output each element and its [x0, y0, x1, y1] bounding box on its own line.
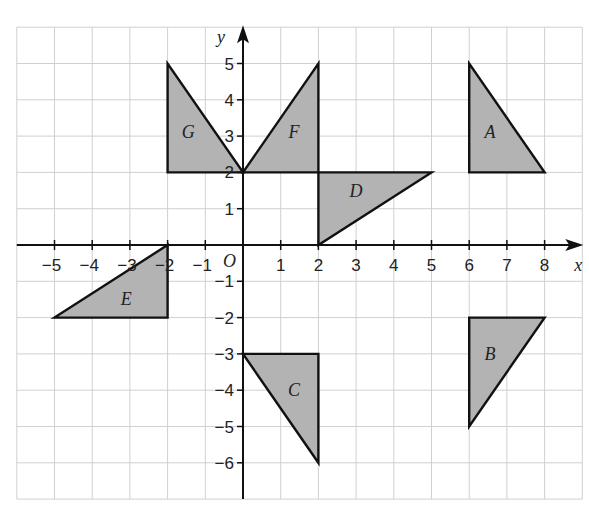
x-tick-label: 6 — [464, 256, 473, 275]
y-tick-label: 1 — [225, 200, 234, 219]
triangle-label-c: C — [288, 380, 301, 400]
y-tick-label: 4 — [225, 91, 234, 110]
x-tick-label: 7 — [502, 256, 511, 275]
x-axis-label: x — [573, 255, 582, 275]
x-tick-label: −5 — [42, 256, 61, 275]
x-tick-label: 5 — [427, 256, 436, 275]
triangle-label-d: D — [349, 181, 363, 201]
y-tick-label: 5 — [225, 55, 234, 74]
triangle-label-g: G — [182, 122, 195, 142]
x-tick-label: −3 — [117, 256, 136, 275]
x-tick-label: −4 — [80, 256, 99, 275]
triangle-label-a: A — [483, 122, 496, 142]
x-tick-label: 2 — [314, 256, 323, 275]
origin-label: O — [223, 251, 236, 271]
y-tick-label: −5 — [215, 418, 234, 437]
triangle-label-f: F — [287, 122, 300, 142]
triangle-label-e: E — [120, 289, 132, 309]
y-tick-label: −4 — [215, 381, 234, 400]
x-tick-label: 1 — [276, 256, 285, 275]
y-axis-label: y — [215, 27, 225, 47]
y-tick-label: −3 — [215, 345, 234, 364]
x-tick-label: 3 — [351, 256, 360, 275]
x-tick-label: −2 — [155, 256, 174, 275]
coordinate-grid-diagram: −5−4−3−2−11234567854321−1−2−3−4−5−6xyO A… — [0, 0, 589, 508]
y-tick-label: 3 — [225, 127, 234, 146]
y-tick-label: −1 — [215, 272, 234, 291]
x-tick-label: 8 — [540, 256, 549, 275]
y-tick-label: −6 — [215, 454, 234, 473]
x-tick-label: 4 — [389, 256, 398, 275]
y-tick-label: 2 — [225, 163, 234, 182]
x-tick-label: −1 — [193, 256, 212, 275]
triangle-label-b: B — [484, 344, 495, 364]
y-tick-label: −2 — [215, 309, 234, 328]
